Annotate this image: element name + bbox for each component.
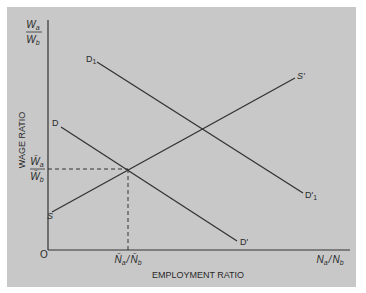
x-axis-label: EMPLOYMENT RATIO bbox=[152, 270, 244, 280]
origin-label: O bbox=[40, 249, 48, 260]
y-axis-top-label: Wa Wb bbox=[26, 19, 42, 46]
y-axis-label: WAGE RATIO bbox=[17, 112, 27, 169]
supply-start-label: S bbox=[47, 211, 53, 221]
svg-text:Wb: Wb bbox=[26, 34, 39, 46]
svg-text:W̄a: W̄a bbox=[30, 155, 43, 168]
svg-text:Wa: Wa bbox=[26, 19, 39, 31]
labor-market-diagram: Wa Wb WAGE RATIO W̄a W̄b O N̄a/N̄b Na/Nb… bbox=[0, 0, 366, 293]
svg-text:W̄b: W̄b bbox=[30, 170, 43, 183]
equilibrium-employment-label: N̄a/N̄b bbox=[114, 253, 141, 266]
demand-curve bbox=[61, 127, 237, 241]
demand-end-label: D' bbox=[240, 237, 248, 247]
x-axis-end-label: Na/Nb bbox=[316, 254, 343, 266]
shifted-demand-end-label: D'1 bbox=[305, 190, 317, 201]
shifted-demand-curve bbox=[97, 62, 303, 193]
supply-end-label: S' bbox=[297, 71, 305, 81]
demand-start-label: D bbox=[52, 118, 59, 128]
shifted-demand-start-label: D1 bbox=[86, 54, 97, 65]
equilibrium-wage-label: W̄a W̄b bbox=[30, 155, 45, 183]
